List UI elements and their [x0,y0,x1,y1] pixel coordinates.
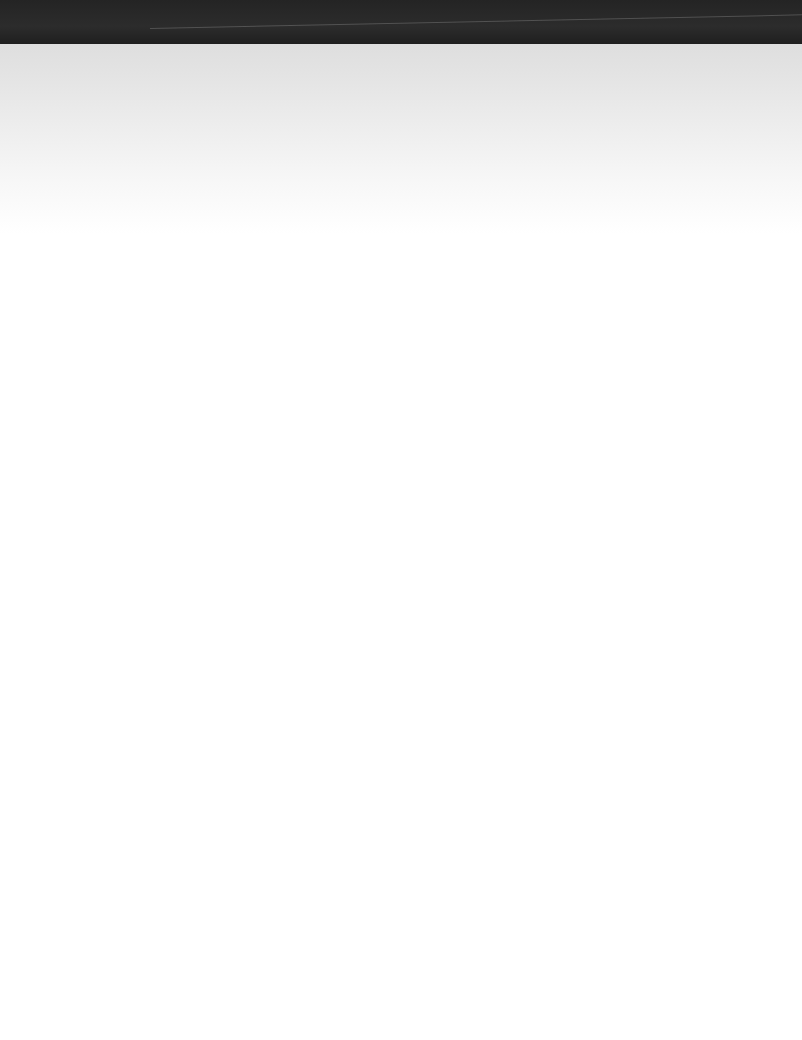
scan-dark-edge [0,0,802,44]
footer-mark [430,1004,530,1018]
blank-page [0,44,802,1040]
